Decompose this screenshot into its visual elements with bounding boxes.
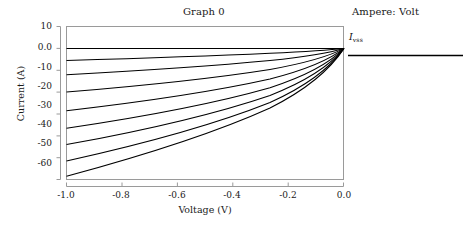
data-curve — [67, 48, 345, 60]
data-curve — [67, 48, 345, 74]
x-axis-spine — [67, 183, 344, 187]
data-curve — [67, 48, 345, 176]
plot-area — [0, 0, 466, 229]
data-curve — [67, 48, 345, 110]
data-curves — [67, 48, 345, 176]
y-axis-spine — [57, 27, 61, 180]
chart-figure: Graph 0 Ampere: Volt Ivss Voltage (V) Cu… — [0, 0, 466, 229]
data-curve — [67, 48, 345, 161]
plot-frame — [67, 27, 344, 180]
